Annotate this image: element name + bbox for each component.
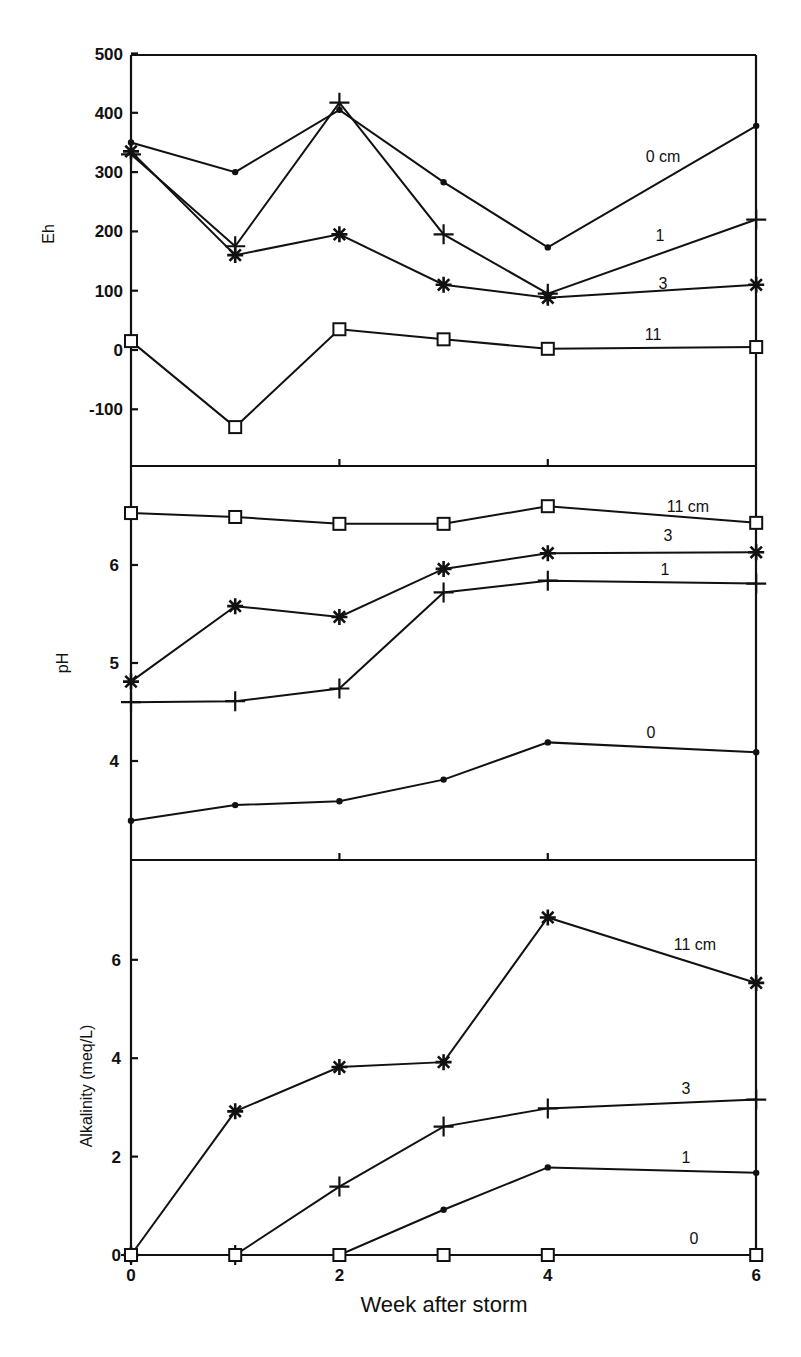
asterisk-marker-icon <box>331 609 347 625</box>
series-line-1cm <box>131 103 756 294</box>
plus-marker-icon <box>538 1098 558 1118</box>
x-tick-label: 0 <box>126 1266 135 1285</box>
panel-middle <box>121 500 766 824</box>
axis-labels: 5004003002001000-100654642002460 cm13111… <box>89 45 761 1286</box>
asterisk-marker-icon <box>227 1103 243 1119</box>
dot-marker-icon <box>232 169 238 175</box>
square-marker-icon <box>125 507 137 519</box>
ph-tick-label: 6 <box>110 556 119 575</box>
dot-marker-icon <box>545 739 551 745</box>
plus-marker-icon <box>329 93 349 113</box>
asterisk-marker-icon <box>331 1059 347 1075</box>
plus-marker-icon <box>746 574 766 594</box>
eh-axis-title: Eh <box>40 224 57 244</box>
series-label-3cm: 3 <box>682 1080 691 1097</box>
ph-axis-title: pH <box>54 653 71 673</box>
plus-marker-icon <box>329 1177 349 1197</box>
ph-tick-label: 4 <box>110 752 120 771</box>
eh-tick-label: 200 <box>95 222 123 241</box>
alk-tick-label: 0 <box>112 1246 121 1265</box>
dot-marker-icon <box>545 1164 551 1170</box>
square-marker-icon <box>750 341 762 353</box>
eh-tick-label: -100 <box>89 400 123 419</box>
series-label-11cm: 11 <box>645 326 662 343</box>
series-label-1cm: 1 <box>682 1149 691 1166</box>
x-tick-label: 4 <box>543 1266 553 1285</box>
series-line-11cm <box>131 917 756 1255</box>
square-marker-icon <box>542 500 554 512</box>
square-marker-icon <box>438 333 450 345</box>
series-label-1cm: 1 <box>661 561 670 578</box>
plus-marker-icon <box>121 692 141 712</box>
eh-tick-label: 500 <box>95 45 123 64</box>
chart-figure: 5004003002001000-100654642002460 cm13111… <box>0 0 801 1357</box>
square-marker-icon <box>542 343 554 355</box>
square-marker-icon <box>750 517 762 529</box>
asterisk-marker-icon <box>436 1054 452 1070</box>
square-marker-icon <box>333 323 345 335</box>
square-marker-icon <box>125 335 137 347</box>
square-marker-icon <box>750 1249 762 1261</box>
eh-tick-label: 100 <box>95 282 123 301</box>
dot-marker-icon <box>232 802 238 808</box>
plus-marker-icon <box>434 224 454 244</box>
square-marker-icon <box>542 1249 554 1261</box>
square-marker-icon <box>333 1249 345 1261</box>
dot-marker-icon <box>440 179 446 185</box>
dot-marker-icon <box>545 244 551 250</box>
asterisk-marker-icon <box>748 544 764 560</box>
asterisk-marker-icon <box>540 290 556 306</box>
square-marker-icon <box>125 1249 137 1261</box>
asterisk-marker-icon <box>227 247 243 263</box>
x-tick-label: 6 <box>751 1266 760 1285</box>
asterisk-marker-icon <box>748 277 764 293</box>
alk-tick-label: 6 <box>112 951 121 970</box>
x-axis-title: Week after storm <box>360 1292 527 1317</box>
series-label-3cm: 3 <box>659 275 668 292</box>
dot-marker-icon <box>128 818 134 824</box>
plus-marker-icon <box>538 571 558 591</box>
dot-marker-icon <box>336 798 342 804</box>
series-label-1cm: 1 <box>656 227 665 244</box>
data-series <box>121 93 766 1265</box>
dot-marker-icon <box>753 1170 759 1176</box>
series-label-11cm: 11 cm <box>667 498 709 515</box>
dot-marker-icon <box>440 1207 446 1213</box>
asterisk-marker-icon <box>123 674 139 690</box>
asterisk-marker-icon <box>436 277 452 293</box>
asterisk-marker-icon <box>540 909 556 925</box>
plus-marker-icon <box>746 210 766 230</box>
plus-marker-icon <box>225 691 245 711</box>
plus-marker-icon <box>434 1117 454 1137</box>
panel-top <box>121 93 766 433</box>
square-marker-icon <box>438 1249 450 1261</box>
ph-tick-label: 5 <box>110 654 119 673</box>
eh-tick-label: 0 <box>114 341 123 360</box>
series-label-0cm: 0 cm <box>646 148 681 165</box>
series-label-0cm: 0 <box>690 1230 699 1247</box>
x-tick-label: 2 <box>335 1266 344 1285</box>
series-label-11cm: 11 cm <box>674 936 716 953</box>
asterisk-marker-icon <box>331 226 347 242</box>
series-label-3cm: 3 <box>664 527 673 544</box>
square-marker-icon <box>229 511 241 523</box>
series-label-0cm: 0 <box>647 724 656 741</box>
eh-tick-label: 400 <box>95 104 123 123</box>
square-marker-icon <box>438 518 450 530</box>
asterisk-marker-icon <box>227 598 243 614</box>
dot-marker-icon <box>753 123 759 129</box>
eh-tick-label: 300 <box>95 163 123 182</box>
alk-axis-title: Alkalinity (meq/L) <box>78 1025 95 1148</box>
square-marker-icon <box>333 518 345 530</box>
alk-tick-label: 4 <box>112 1049 122 1068</box>
square-marker-icon <box>229 1249 241 1261</box>
plus-marker-icon <box>746 1090 766 1110</box>
asterisk-marker-icon <box>123 143 139 159</box>
dot-marker-icon <box>440 776 446 782</box>
asterisk-marker-icon <box>748 975 764 991</box>
alk-tick-label: 2 <box>112 1148 121 1167</box>
square-marker-icon <box>229 421 241 433</box>
asterisk-marker-icon <box>540 545 556 561</box>
dot-marker-icon <box>753 749 759 755</box>
panel-bottom <box>121 909 766 1265</box>
